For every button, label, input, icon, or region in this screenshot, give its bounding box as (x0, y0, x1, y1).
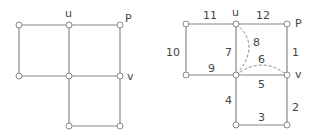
node (233, 122, 239, 128)
label-p: P (125, 12, 132, 25)
edge-label-5: 5 (258, 78, 265, 91)
label-p: P (295, 17, 302, 30)
edge-label-6: 6 (258, 53, 265, 66)
node-v (284, 72, 290, 78)
node-p (117, 22, 123, 28)
node (284, 122, 290, 128)
node (183, 72, 189, 78)
node (66, 123, 72, 129)
node (183, 21, 189, 27)
node-v (117, 73, 123, 79)
edge-label-2: 2 (292, 101, 299, 114)
node (117, 123, 123, 129)
label-v: v (295, 68, 302, 81)
node (16, 22, 22, 28)
edge-label-9: 9 (208, 62, 215, 75)
label-u: u (65, 7, 72, 20)
left-graph: u P v (16, 7, 134, 129)
right-graph: u P v 1 2 3 4 5 6 7 8 9 10 11 12 (166, 6, 302, 128)
dashed-edge-8 (236, 24, 249, 75)
edge-label-8: 8 (253, 36, 260, 49)
node-u (66, 22, 72, 28)
edge-label-1: 1 (292, 46, 299, 59)
edge-label-10: 10 (166, 46, 180, 59)
edge-label-7: 7 (225, 46, 232, 59)
node (233, 72, 239, 78)
dashed-edge-6 (236, 65, 287, 75)
label-v: v (127, 70, 134, 83)
label-u: u (232, 6, 239, 19)
edge-label-12: 12 (256, 9, 270, 22)
graph-diagrams: u P v u P v 1 2 3 4 5 6 7 8 9 10 11 12 (0, 0, 316, 135)
node-u (233, 21, 239, 27)
edge-label-4: 4 (225, 94, 232, 107)
node (16, 73, 22, 79)
edge-label-11: 11 (203, 9, 217, 22)
edge-label-3: 3 (258, 111, 265, 124)
node (66, 73, 72, 79)
node-p (284, 21, 290, 27)
